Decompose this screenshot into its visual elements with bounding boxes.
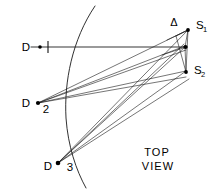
detector-label-d1-prefix: D xyxy=(22,41,31,53)
caption-line-view: VIEW xyxy=(142,160,175,172)
delta-symbol-label: Δ xyxy=(170,16,178,28)
segment-crossbar-upper xyxy=(167,30,188,40)
ray-d2-to-s1 xyxy=(38,30,188,103)
source-dot-s1 xyxy=(186,28,190,32)
detector-dot-d1 xyxy=(38,45,42,49)
ray-d3-to-s1 xyxy=(58,30,188,163)
detector-label-d2-prefix: D xyxy=(22,97,31,109)
detector-label-d3-index: 3 xyxy=(67,161,73,173)
detector-dot-d2 xyxy=(36,101,40,105)
source-label-s2-subscript: 2 xyxy=(201,70,205,79)
top-view-ray-diagram: D D 2 D 3 Δ S 1 S 2 TOP VIEW xyxy=(0,0,214,195)
delta-node-dot xyxy=(183,45,187,49)
diagram-canvas: D D 2 D 3 Δ S 1 S 2 TOP VIEW xyxy=(0,0,214,195)
detector-label-d3-prefix: D xyxy=(44,160,53,172)
detector-dot-d3 xyxy=(56,161,61,166)
ray-d2-to-s2-lower xyxy=(38,77,186,103)
detector-label-d2-index: 2 xyxy=(43,103,49,115)
source-label-s1-subscript: 1 xyxy=(203,25,207,34)
source-dot-s2 xyxy=(184,70,188,74)
caption-line-top: TOP xyxy=(144,146,170,158)
